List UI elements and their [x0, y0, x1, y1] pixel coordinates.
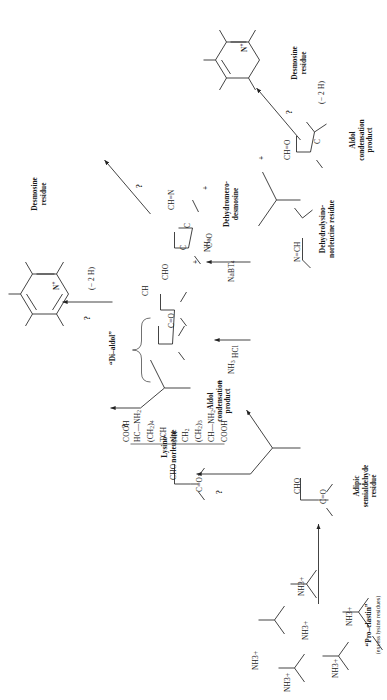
carbonyl-group-aldol-1: C=O — [194, 477, 203, 492]
dehydrolysinonorleucine-caption: Dehydrolysino- norleucine residue — [318, 174, 335, 284]
hcl-label: HCl — [230, 345, 239, 358]
dehydromero-label-1: Dehydromero- — [222, 160, 231, 248]
lysinonorleucine-label-1: Lysino- — [160, 414, 169, 478]
ch-group-dialdol: CH — [140, 285, 149, 296]
aldol2-label-3: product — [365, 98, 374, 182]
scheme-canvas: NH3+ NH3+ NH3+ NH3+ NH3+ NH3+ “Pro–elast… — [0, 0, 387, 700]
carbon-label-aldol-2: C — [312, 139, 321, 144]
pro-elastin-caption: “Pro–elastin” (excess lysine residues) — [364, 570, 380, 680]
desmosine-label-top-2: residue — [39, 158, 48, 230]
nh3-plus-label-1: NH3+ — [250, 651, 259, 670]
pro-elastin-sublabel: (excess lysine residues) — [373, 570, 380, 680]
question-mark-2: ? — [120, 424, 129, 428]
n-plus-label-lower: N+ — [238, 43, 248, 52]
question-mark-1: ? — [214, 490, 223, 494]
cho-group-adipic: CHO — [292, 478, 301, 494]
dehydromerodesmosine-caption: Dehydromero- desmosine — [222, 160, 239, 248]
di-aldol-caption: “Di–aldol” — [108, 308, 117, 388]
adipic-label-3: residue — [369, 440, 378, 532]
plus-sign-3: + — [200, 186, 209, 190]
carbonyl-group-dialdol: C=O — [166, 313, 175, 328]
nh3-plus-label-5: NH3+ — [344, 607, 353, 626]
desmosine-label-top-1: Desmosine — [30, 158, 39, 230]
figure-caption: Scheme for the formation of cross-links … — [379, 696, 385, 700]
dehydromero-label-2: desmosine — [231, 160, 240, 248]
ch-o-group-aldol-2: CH=O — [282, 139, 291, 160]
carbonyl-group-dmd: C=O — [204, 233, 213, 248]
desmosine-caption-lower: Desmosine residue — [290, 26, 307, 100]
question-mark-5: ? — [284, 110, 293, 114]
dehydrolysino-label-2: norleucine residue — [327, 174, 336, 284]
nh3-plus-label-3: NH3+ — [300, 621, 309, 640]
nh3-plus-label-6: NH3+ — [296, 577, 305, 596]
ammonia-label-1: NH3 — [226, 360, 235, 374]
question-mark-3: ? — [82, 316, 91, 320]
adipic-caption: Adipic semialdehyde residue — [352, 440, 378, 532]
aldol-caption-2: Aldol condensation product — [348, 98, 374, 182]
n-plus-label-top: N+ — [50, 281, 60, 290]
question-mark-4: ? — [134, 184, 143, 188]
lysinonorleucine-caption: Lysino- norleucine — [160, 414, 177, 478]
minus-2h-label-1: (− 2 H) — [86, 267, 95, 290]
plus-sign-1: + — [214, 380, 223, 384]
desmosine-caption-top: Desmosine residue — [30, 158, 47, 230]
minus-2h-label-2: (− 2 H) — [316, 81, 325, 104]
nh3-plus-label-2: NH3+ — [282, 673, 291, 692]
n-ch-group-dlnl: N=CH — [292, 241, 301, 262]
carbonyl-group-adipic: C=O — [318, 489, 327, 504]
di-aldol-label: “Di–aldol” — [108, 308, 117, 388]
nabt4-label: NaBT4 — [226, 260, 235, 282]
desmosine-label-lower-2: residue — [299, 26, 308, 100]
desmosine-label-lower-1: Desmosine — [290, 26, 299, 100]
carbon-label-dmd-1: C — [178, 245, 187, 250]
adipic-label-1: Adipic — [352, 440, 361, 532]
ch-n-group-dmd: CH=N — [166, 189, 175, 210]
aldol2-label-1: Aldol — [348, 98, 357, 182]
carbon-label-dmd-2: C — [182, 223, 191, 228]
dehydrolysino-label-1: Dehydrolysino- — [318, 174, 327, 284]
nh3-plus-label-4: NH3+ — [330, 659, 339, 678]
lysinonorleucine-label-2: norleucine — [169, 414, 178, 478]
figure-canvas: NH3+ NH3+ NH3+ NH3+ NH3+ NH3+ “Pro–elast… — [0, 0, 387, 700]
plus-sign-4: + — [256, 156, 265, 160]
pro-elastin-label: “Pro–elastin” — [364, 570, 373, 680]
